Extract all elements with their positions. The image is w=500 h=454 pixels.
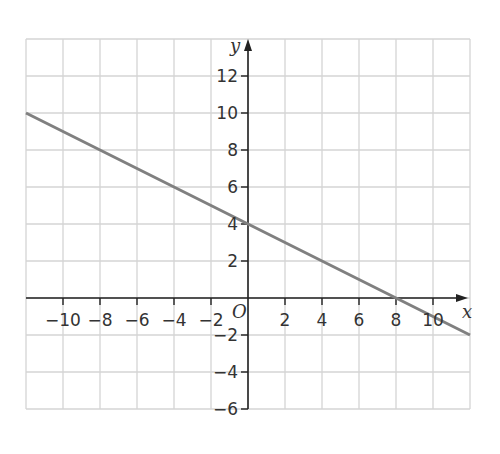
y-tick-label: 8 (227, 140, 238, 160)
origin-label: O (232, 301, 247, 322)
x-tick-label: −4 (161, 310, 186, 330)
x-tick-label: 10 (422, 310, 444, 330)
y-tick-label: 2 (227, 251, 238, 271)
x-tick-label: −8 (87, 310, 112, 330)
y-axis-label: y (229, 35, 241, 56)
line-graph: −10−8−6−4−2246810−6−4−224681012xyO (0, 0, 500, 454)
x-tick-label: 8 (391, 310, 402, 330)
y-tick-label: 6 (227, 177, 238, 197)
y-tick-label: −6 (213, 399, 238, 419)
x-tick-label: 2 (280, 310, 291, 330)
x-axis-label: x (462, 301, 472, 322)
x-tick-label: −10 (45, 310, 81, 330)
x-tick-label: 4 (317, 310, 328, 330)
y-tick-label: 12 (216, 66, 238, 86)
tick-labels: −10−8−6−4−2246810−6−4−224681012xyO (45, 35, 472, 419)
x-tick-label: 6 (354, 310, 365, 330)
x-tick-label: −6 (124, 310, 149, 330)
y-tick-label: 4 (227, 214, 238, 234)
y-tick-label: −2 (213, 325, 238, 345)
y-tick-label: −4 (213, 362, 238, 382)
y-axis-arrow-icon (244, 39, 252, 51)
y-tick-label: 10 (216, 103, 238, 123)
